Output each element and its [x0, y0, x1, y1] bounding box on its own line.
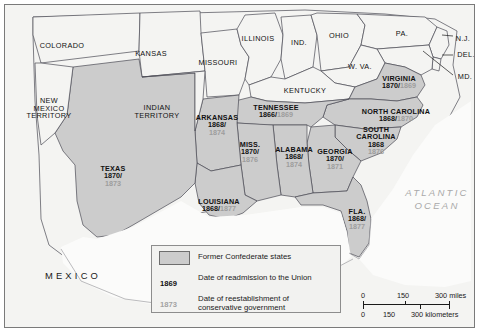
mexico-label: MEXICO — [45, 270, 101, 281]
state-arkansas — [195, 95, 241, 171]
conservative-year-sample: 1873 — [158, 299, 177, 309]
scale-tick-mid-dn — [420, 305, 421, 309]
scale-tick-left — [363, 301, 364, 309]
ocean-label-line1: ATLANTIC — [405, 187, 468, 198]
legend-row-swatch: Former Confederate states — [158, 251, 334, 269]
legend-conservative-text: Date of reestablishment of conservative … — [198, 293, 289, 312]
confederate-fill-swatch — [159, 251, 190, 265]
scale-tick-mid-up — [405, 301, 406, 305]
legend-readmission-text: Date of readmission to the Union — [198, 272, 312, 282]
scale-ruler — [361, 301, 473, 309]
scale-miles-tick-0: 0 — [361, 291, 365, 300]
scale-ruler-line — [363, 304, 450, 305]
scale-miles-tick-1: 150 — [397, 291, 409, 300]
legend-conservative-line2: conservative government — [198, 303, 285, 312]
scale-km-end: 300 kilometers — [411, 310, 458, 319]
scale-miles-end: 300 miles — [435, 291, 466, 300]
state-pennsylvania — [357, 14, 437, 49]
readmission-year-sample: 1869 — [158, 278, 177, 288]
legend-swatch-key — [158, 251, 198, 269]
legend-readmission-key: 1869 — [158, 272, 198, 290]
legend-swatch-text: Former Confederate states — [198, 251, 291, 261]
scale-miles-labels: 0 150 300 miles — [361, 291, 473, 300]
map-frame: .land{fill:#f4f4f2;stroke:#4a4a55;stroke… — [4, 4, 475, 328]
legend: Former Confederate states 1869 Date of r… — [151, 245, 341, 313]
scale-km-labels: 0 150 300 kilometers — [361, 310, 473, 319]
legend-conservative-key: 1873 — [158, 293, 198, 311]
ocean-label: ATLANTIC OCEAN — [405, 187, 468, 213]
legend-row-readmission: 1869 Date of readmission to the Union — [158, 272, 334, 290]
scale-km-tick-0: 0 — [361, 310, 365, 319]
legend-row-conservative: 1873 Date of reestablishment of conserva… — [158, 293, 334, 312]
legend-conservative-line1: Date of reestablishment of — [198, 294, 289, 303]
state-kansas — [139, 11, 205, 77]
ocean-label-line2: OCEAN — [414, 200, 459, 211]
scale-tick-right — [449, 301, 450, 309]
scale-km-tick-1: 150 — [383, 310, 395, 319]
scale-bar: 0 150 300 miles 0 150 300 kilometers — [361, 291, 473, 325]
map-root: .land{fill:#f4f4f2;stroke:#4a4a55;stroke… — [0, 0, 479, 332]
